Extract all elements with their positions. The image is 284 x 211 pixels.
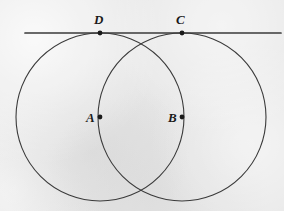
- point-label-d: D: [94, 13, 103, 26]
- point-marker-d: [98, 31, 103, 36]
- point-marker-c: [180, 31, 185, 36]
- point-marker-a: [98, 115, 103, 120]
- figure-canvas: [0, 0, 284, 211]
- point-label-c: C: [176, 13, 185, 26]
- point-label-b: B: [168, 111, 177, 124]
- point-marker-b: [180, 115, 185, 120]
- point-label-a: A: [86, 111, 95, 124]
- geometry-figure: A B C D: [0, 0, 284, 211]
